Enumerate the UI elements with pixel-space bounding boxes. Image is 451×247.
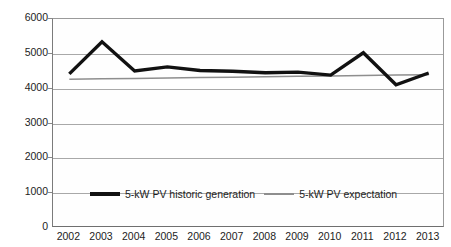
y-axis-tick-label: 2000 <box>2 150 48 162</box>
series-line-expectation <box>69 75 428 80</box>
y-axis-tick-label: 5000 <box>2 46 48 58</box>
legend-label-expectation: 5-kW PV expectation <box>299 188 397 200</box>
legend: 5-kW PV historic generation 5-kW PV expe… <box>90 188 397 200</box>
y-axis-tick-label: 4000 <box>2 81 48 93</box>
y-axis-tick-label: 3000 <box>2 116 48 128</box>
legend-item-expectation: 5-kW PV expectation <box>264 188 397 200</box>
legend-item-historic: 5-kW PV historic generation <box>90 188 255 200</box>
legend-swatch-historic-line <box>90 192 120 195</box>
y-axis-tick-label: 6000 <box>2 11 48 23</box>
y-axis-tick-label: 1000 <box>2 185 48 197</box>
line-chart: Annual generation (kWh) 0100020003000400… <box>0 0 451 247</box>
x-axis-tick-label: 2013 <box>408 230 448 242</box>
legend-label-historic: 5-kW PV historic generation <box>125 188 255 200</box>
y-axis-tick-label: 0 <box>2 220 48 232</box>
legend-swatch-expectation-line <box>264 193 294 195</box>
